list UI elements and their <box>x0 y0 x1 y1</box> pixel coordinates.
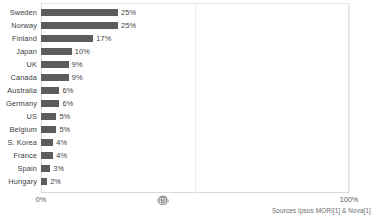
x-axis-tick-max: 100% <box>340 195 358 204</box>
bar <box>41 61 69 68</box>
bar-row: Finland17% <box>0 32 377 45</box>
bar-track: 4% <box>41 139 349 146</box>
bar <box>41 126 56 133</box>
bar-row: UK9% <box>0 58 377 71</box>
source-note: Sources Ipsos MORI[1] & Nova[1] <box>272 207 371 214</box>
bar-row: Japan10% <box>0 45 377 58</box>
bar-row: Canada9% <box>0 71 377 84</box>
bar-category-label: Finland <box>0 32 37 45</box>
bar-category-label: Hungary <box>0 175 37 188</box>
bar-category-label: Norway <box>0 19 37 32</box>
bar-category-label: Germany <box>0 97 37 110</box>
bar-category-label: Belgium <box>0 123 37 136</box>
bar-value-label: 3% <box>50 162 64 175</box>
bar-row: Sweden25% <box>0 6 377 19</box>
bar <box>41 113 56 120</box>
bar-category-label: US <box>0 110 37 123</box>
bar-track: 6% <box>41 100 349 107</box>
bar-row: Norway25% <box>0 19 377 32</box>
x-axis-tick-min: 0% <box>36 195 46 204</box>
bar <box>41 35 93 42</box>
bar-row: US5% <box>0 110 377 123</box>
bar <box>41 74 69 81</box>
bar <box>41 22 118 29</box>
bar <box>41 100 59 107</box>
bar-category-label: UK <box>0 58 37 71</box>
bar-value-label: 9% <box>69 58 83 71</box>
bar-value-label: 4% <box>53 136 67 149</box>
bar-value-label: 6% <box>59 97 73 110</box>
bar-chart: Sweden25%Norway25%Finland17%Japan10%UK9%… <box>0 0 377 223</box>
bar-track: 25% <box>41 9 349 16</box>
bar-rows: Sweden25%Norway25%Finland17%Japan10%UK9%… <box>0 6 377 188</box>
bar-track: 5% <box>41 113 349 120</box>
bar-track: 3% <box>41 165 349 172</box>
bar <box>41 152 53 159</box>
bar-value-label: 10% <box>72 45 90 58</box>
bar-track: 10% <box>41 48 349 55</box>
bar-track: 5% <box>41 126 349 133</box>
bar <box>41 165 50 172</box>
bar-value-label: 5% <box>56 123 70 136</box>
bar-value-label: 9% <box>69 71 83 84</box>
bar-row: Hungary2% <box>0 175 377 188</box>
bar-category-label: Sweden <box>0 6 37 19</box>
bar-category-label: S. Korea <box>0 136 37 149</box>
bar-row: Belgium5% <box>0 123 377 136</box>
bar-track: 4% <box>41 152 349 159</box>
monkey-face-icon: 🐵 <box>156 193 170 207</box>
bar <box>41 48 72 55</box>
x-axis: 0% 🐵 100% <box>0 195 377 207</box>
bar <box>41 139 53 146</box>
bar-value-label: 5% <box>56 110 70 123</box>
bar-row: S. Korea4% <box>0 136 377 149</box>
bar-value-label: 17% <box>93 32 111 45</box>
bar-row: Germany6% <box>0 97 377 110</box>
bar-value-label: 4% <box>53 149 67 162</box>
bar-row: Australia6% <box>0 84 377 97</box>
bar <box>41 9 118 16</box>
bar-track: 17% <box>41 35 349 42</box>
bar-track: 25% <box>41 22 349 29</box>
bar-value-label: 25% <box>118 19 136 32</box>
bar-category-label: Australia <box>0 84 37 97</box>
bar-category-label: France <box>0 149 37 162</box>
bar-track: 9% <box>41 74 349 81</box>
bar-row: France4% <box>0 149 377 162</box>
bar-category-label: Canada <box>0 71 37 84</box>
bar-value-label: 6% <box>59 84 73 97</box>
bar-track: 9% <box>41 61 349 68</box>
bar-category-label: Japan <box>0 45 37 58</box>
bar-category-label: Spain <box>0 162 37 175</box>
bar-value-label: 2% <box>47 175 61 188</box>
bar-track: 2% <box>41 178 349 185</box>
bar-row: Spain3% <box>0 162 377 175</box>
bar-track: 6% <box>41 87 349 94</box>
bar-value-label: 25% <box>118 6 136 19</box>
bar <box>41 87 59 94</box>
